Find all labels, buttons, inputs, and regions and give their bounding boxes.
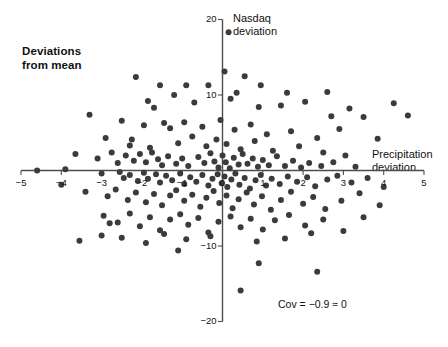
data-point: [268, 207, 274, 213]
data-point: [352, 164, 358, 170]
data-point: [324, 89, 330, 95]
data-point: [318, 163, 324, 169]
data-point: [82, 189, 88, 195]
data-point: [211, 188, 217, 194]
data-point: [286, 212, 292, 218]
data-point: [117, 169, 123, 175]
data-point: [254, 238, 260, 244]
data-point: [288, 189, 294, 195]
data-point: [125, 197, 131, 203]
data-point: [242, 175, 248, 181]
data-point: [133, 189, 139, 195]
data-point: [76, 238, 82, 244]
data-point: [197, 204, 203, 210]
x-tick-label: −3: [88, 177, 116, 188]
data-point: [340, 228, 346, 234]
data-point: [357, 190, 363, 196]
data-point: [244, 189, 250, 195]
data-point: [244, 161, 250, 167]
data-point: [167, 125, 173, 131]
data-point: [234, 90, 240, 96]
data-point: [282, 235, 288, 241]
data-point: [155, 156, 161, 162]
data-point: [72, 151, 78, 157]
data-point: [259, 193, 265, 199]
data-point: [308, 230, 314, 236]
data-point: [242, 73, 248, 79]
data-point: [143, 240, 149, 246]
data-point: [266, 162, 272, 168]
data-point: [238, 224, 244, 230]
data-point: [256, 104, 262, 110]
data-point: [284, 90, 290, 96]
data-point: [167, 192, 173, 198]
data-point: [240, 151, 246, 157]
data-point: [310, 194, 316, 200]
data-point: [260, 226, 266, 232]
data-point: [195, 215, 201, 221]
data-point: [215, 164, 221, 170]
data-point: [405, 112, 411, 118]
data-point: [227, 165, 233, 171]
data-point: [228, 96, 234, 102]
x-tick-label: −1: [168, 177, 196, 188]
data-point: [143, 199, 149, 205]
data-point: [346, 106, 352, 112]
data-point: [159, 202, 165, 208]
data-point: [230, 205, 236, 211]
plot-canvas: [0, 0, 448, 347]
data-point: [255, 164, 261, 170]
data-point: [296, 143, 302, 149]
data-point: [107, 220, 113, 226]
data-point: [290, 158, 296, 164]
x-tick-label: −5: [7, 177, 35, 188]
data-point: [203, 143, 209, 149]
data-point: [256, 260, 262, 266]
data-point: [121, 175, 127, 181]
y-tick-label: 10: [187, 89, 217, 100]
data-point: [320, 217, 326, 223]
data-point: [137, 151, 143, 157]
data-point: [250, 155, 256, 161]
x-tick-label: 3: [329, 177, 357, 188]
data-point: [177, 211, 183, 217]
data-point: [314, 135, 320, 141]
data-point: [391, 100, 397, 106]
data-point: [181, 198, 187, 204]
data-point: [205, 82, 211, 88]
data-point: [207, 150, 213, 156]
data-point: [127, 143, 133, 149]
data-point: [278, 103, 284, 109]
data-point: [314, 269, 320, 275]
data-point: [361, 214, 367, 220]
data-point: [277, 181, 283, 187]
data-point: [260, 157, 266, 163]
data-point: [375, 136, 381, 142]
data-point: [278, 197, 284, 203]
data-point: [115, 220, 121, 226]
data-point: [133, 74, 139, 80]
data-point: [87, 112, 93, 118]
data-point: [137, 223, 143, 229]
data-point: [302, 99, 308, 105]
data-point: [109, 149, 115, 155]
data-point: [161, 231, 167, 237]
data-point: [288, 128, 294, 134]
data-point: [101, 213, 107, 219]
data-point: [141, 122, 147, 128]
data-point: [330, 159, 336, 165]
data-point: [129, 137, 135, 143]
data-point: [175, 248, 181, 254]
data-point: [189, 192, 195, 198]
x-tick-label: −2: [128, 177, 156, 188]
data-point: [151, 191, 157, 197]
data-point: [251, 201, 257, 207]
data-point: [300, 201, 306, 207]
data-point: [145, 98, 151, 104]
data-point: [306, 160, 312, 166]
data-point: [236, 161, 242, 167]
data-point: [248, 216, 254, 222]
data-point: [167, 217, 173, 223]
data-point: [248, 121, 254, 127]
data-point: [264, 131, 270, 137]
